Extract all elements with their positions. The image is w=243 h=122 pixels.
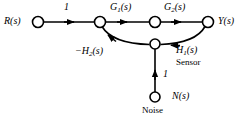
node-feedback-junction xyxy=(150,39,160,49)
node-summing-junction xyxy=(95,17,106,28)
label-branch-G1: G1(s) xyxy=(110,2,131,14)
node-noise-N xyxy=(150,92,160,102)
label-output-Y: Y(s) xyxy=(218,16,234,26)
label-branch-G2: G2(s) xyxy=(164,2,185,14)
edge-junction-to-sum xyxy=(102,27,150,45)
label-gain-input: 1 xyxy=(64,2,69,12)
signal-flow-graph-figure: R(s) 1 G1(s) G2(s) Y(s) −H2(s) H1(s) Sen… xyxy=(0,0,243,122)
label-branch-H1: H1(s) xyxy=(176,45,197,57)
label-branch-H2: −H2(s) xyxy=(75,46,103,58)
label-noise-caption: Noise xyxy=(142,106,163,115)
node-input-R xyxy=(33,17,44,28)
node-output-Y xyxy=(203,17,214,28)
label-gain-noise: 1 xyxy=(163,69,168,79)
label-noise-N: N(s) xyxy=(172,91,189,101)
node-intermediate xyxy=(150,17,161,28)
edge-Y-to-junction xyxy=(161,27,206,46)
label-sensor-caption: Sensor xyxy=(176,58,201,67)
label-input-R: R(s) xyxy=(4,16,21,26)
signal-flow-graph-canvas xyxy=(0,0,243,122)
